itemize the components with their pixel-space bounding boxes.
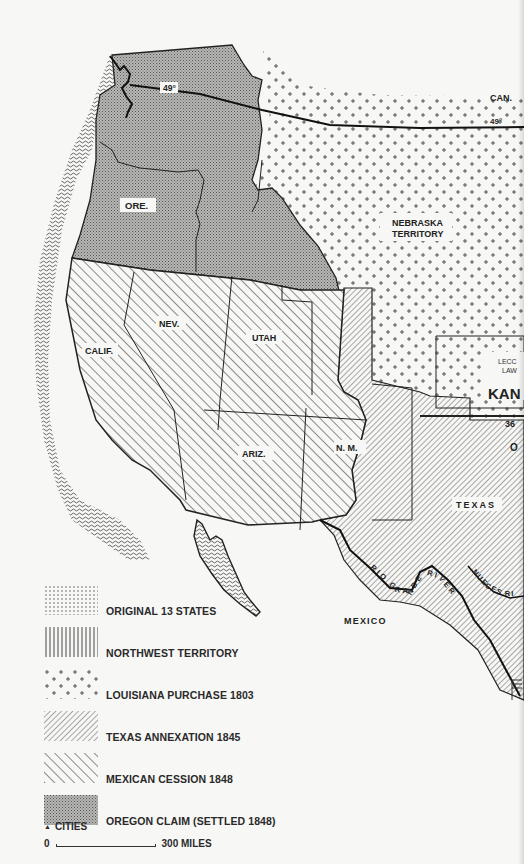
parallel-36-label: 36 [505, 419, 515, 429]
kansas-label: KAN [488, 385, 521, 402]
scale-end: 300 MILES [162, 838, 212, 849]
legend-label: LOUISIANA PURCHASE 1803 [106, 689, 254, 701]
arizona-label: ARIZ. [242, 449, 266, 459]
legend-item-louisiana-purchase: LOUISIANA PURCHASE 1803 [44, 669, 344, 711]
oklahoma-label: O [510, 442, 518, 453]
plus-signs-swatch-icon [44, 669, 98, 699]
legend-item-original-13-states: ORIGINAL 13 STATES [44, 585, 344, 627]
back-diagonal-swatch-icon [44, 711, 98, 741]
legend-item-northwest-territory: NORTHWEST TERRITORY [44, 627, 344, 669]
nebraska-territory-label-1: NEBRASKA [392, 218, 444, 228]
map-legend: ORIGINAL 13 STATES NORTHWEST TERRITORY L… [44, 585, 344, 837]
nebraska-territory-label-2: TERRITORY [392, 229, 444, 239]
lecompton-label-2: LAW [502, 367, 517, 374]
mexican-cession-region [66, 258, 366, 525]
legend-label: OREGON CLAIM (SETTLED 1848) [106, 815, 276, 827]
oregon-label: ORE. [125, 200, 148, 211]
new-mexico-label: N. M. [336, 443, 358, 453]
legend-label: ORIGINAL 13 STATES [106, 605, 216, 617]
legend-label: TEXAS ANNEXATION 1845 [106, 731, 241, 743]
scale-bar: 0 300 MILES [44, 838, 212, 849]
parallel-49-label-west: 49° [163, 83, 176, 93]
legend-cities: ▲CITIES [44, 821, 87, 832]
scale-start: 0 [44, 838, 50, 849]
city-triangle-icon: ▲ [44, 823, 51, 830]
vertical-lines-swatch-icon [44, 627, 98, 657]
texas-label: TEXAS [456, 500, 496, 510]
mexico-label: MEXICO [344, 616, 387, 626]
dots-grid-swatch-icon [44, 585, 98, 615]
nevada-label: NEV. [159, 319, 179, 329]
forward-diagonal-swatch-icon [44, 753, 98, 783]
cities-label: CITIES [55, 821, 87, 832]
utah-label: UTAH [252, 333, 276, 343]
canada-label: CAN. [490, 93, 512, 103]
legend-item-texas-annexation: TEXAS ANNEXATION 1845 [44, 711, 344, 753]
legend-label: NORTHWEST TERRITORY [106, 647, 239, 659]
legend-label: MEXICAN CESSION 1848 [106, 773, 233, 785]
legend-item-oregon-claim: OREGON CLAIM (SETTLED 1848) [44, 795, 344, 837]
lecompton-label-1: LECC [498, 358, 517, 365]
legend-item-mexican-cession: MEXICAN CESSION 1848 [44, 753, 344, 795]
parallel-49-label-east: 49° [490, 117, 502, 126]
scale-bar-line [56, 846, 156, 847]
page-edge-shadow [518, 0, 524, 864]
california-label: CALIF. [85, 346, 113, 356]
